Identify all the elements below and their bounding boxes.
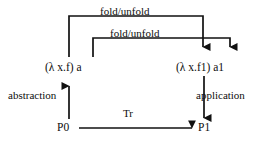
edge-label-tr: Tr xyxy=(123,108,133,119)
edge-label-application: application xyxy=(196,90,245,101)
node-lambda-xf1-a1: (λ x.f1) a1 xyxy=(176,62,224,74)
edge-label-abstraction: abstraction xyxy=(8,90,56,101)
edge-fold-unfold-inner xyxy=(93,38,230,57)
node-p1: P1 xyxy=(198,122,210,134)
diagram-edges-canvas xyxy=(0,0,268,141)
lambda-diagram: (λ x.f) a (λ x.f1) a1 P0 P1 fold/unfold … xyxy=(0,0,268,141)
edge-label-fold-unfold-outer: fold/unfold xyxy=(100,6,150,17)
node-lambda-xf-a: (λ x.f) a xyxy=(45,62,82,74)
edge-label-fold-unfold-inner: fold/unfold xyxy=(110,28,160,39)
node-p0: P0 xyxy=(57,122,69,134)
